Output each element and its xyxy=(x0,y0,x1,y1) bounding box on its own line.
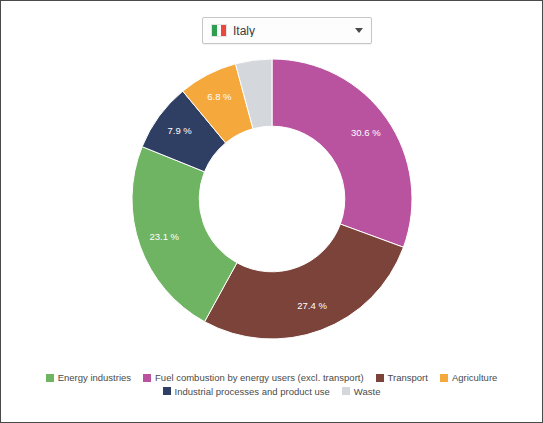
chevron-down-icon[interactable] xyxy=(355,28,363,33)
donut-chart: 30.6 %27.4 %23.1 %7.9 %6.8 % xyxy=(1,47,542,367)
legend-row: Energy industriesFuel combustion by ener… xyxy=(1,373,542,383)
legend-swatch xyxy=(376,374,384,382)
slice-value-label: 23.1 % xyxy=(149,231,179,242)
chart-panel: Italy 30.6 %27.4 %23.1 %7.9 %6.8 % Energ… xyxy=(0,0,543,423)
legend-label: Agriculture xyxy=(452,373,497,383)
legend-label: Transport xyxy=(388,373,428,383)
legend-label: Industrial processes and product use xyxy=(175,387,330,397)
slice-value-label: 6.8 % xyxy=(207,91,232,102)
donut-slices xyxy=(132,59,412,339)
slice-value-label: 27.4 % xyxy=(297,300,327,311)
legend-swatch xyxy=(143,374,151,382)
legend-item[interactable]: Energy industries xyxy=(46,373,131,383)
country-dropdown-label: Italy xyxy=(233,25,349,37)
country-dropdown[interactable]: Italy xyxy=(202,17,372,44)
donut-slice[interactable] xyxy=(205,224,404,339)
chart-legend: Energy industriesFuel combustion by ener… xyxy=(1,373,542,400)
donut-slice[interactable] xyxy=(272,59,412,247)
legend-swatch xyxy=(440,374,448,382)
legend-label: Waste xyxy=(354,387,381,397)
legend-row: Industrial processes and product useWast… xyxy=(1,387,542,397)
legend-swatch xyxy=(163,387,171,395)
donut-chart-svg: 30.6 %27.4 %23.1 %7.9 %6.8 % xyxy=(122,49,422,349)
legend-item[interactable]: Agriculture xyxy=(440,373,497,383)
legend-swatch xyxy=(46,374,54,382)
slice-value-label: 7.9 % xyxy=(168,125,193,136)
slice-value-label: 30.6 % xyxy=(351,127,381,138)
legend-item[interactable]: Transport xyxy=(376,373,428,383)
legend-swatch xyxy=(342,387,350,395)
legend-item[interactable]: Industrial processes and product use xyxy=(163,387,330,397)
legend-label: Fuel combustion by energy users (excl. t… xyxy=(155,373,364,383)
legend-item[interactable]: Waste xyxy=(342,387,381,397)
country-selector-container: Italy xyxy=(202,17,372,44)
italy-flag-icon xyxy=(211,24,227,37)
legend-label: Energy industries xyxy=(58,373,131,383)
legend-item[interactable]: Fuel combustion by energy users (excl. t… xyxy=(143,373,364,383)
